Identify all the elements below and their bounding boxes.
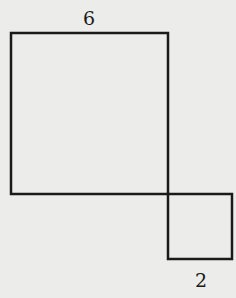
small-square-label: 2 bbox=[195, 269, 207, 291]
small-square bbox=[168, 194, 232, 259]
two-squares-diagram: 6 2 bbox=[0, 0, 236, 298]
large-square-label: 6 bbox=[83, 7, 95, 29]
large-square bbox=[11, 33, 168, 194]
